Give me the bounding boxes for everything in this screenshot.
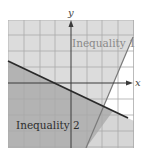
inequality-1-label: Inequality 1 (72, 37, 136, 49)
inequality-graph: y x Inequality 1 Inequality 2 (0, 0, 143, 153)
x-axis-label: x (135, 77, 141, 88)
inequality-2-label: Inequality 2 (16, 119, 80, 131)
y-axis-label: y (67, 7, 74, 18)
